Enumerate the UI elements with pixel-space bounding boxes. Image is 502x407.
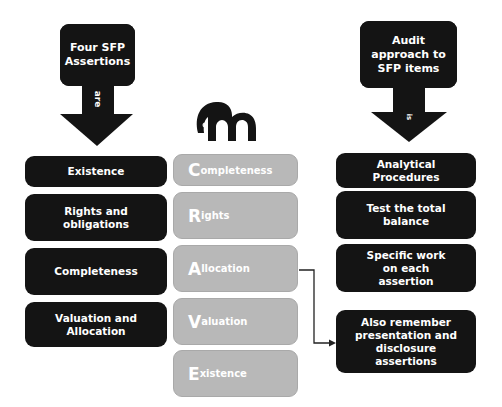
approach-label: Analytical Procedures <box>342 158 470 184</box>
mnemonic-initial: E <box>188 364 200 384</box>
assertion-label: Completeness <box>54 265 137 278</box>
assertion-box-rights: Rights and obligations <box>25 194 167 241</box>
mnemonic-initial: R <box>188 206 201 226</box>
mnemonic-box-valuation: Valuation <box>173 298 298 345</box>
approach-box-presentation: Also remember presentation and disclosur… <box>336 310 476 373</box>
assertion-box-valuation: Valuation and Allocation <box>25 302 167 347</box>
approach-box-analytical: Analytical Procedures <box>336 153 476 188</box>
assertion-label: Existence <box>68 165 125 178</box>
left-arrow-connector-label: are <box>93 89 103 109</box>
mnemonic-box-completeness: Completeness <box>173 154 298 186</box>
mnemonic-rest: aluation <box>201 316 247 327</box>
mnemonic-initial: A <box>188 259 201 279</box>
mnemonic-initial: V <box>188 312 201 332</box>
left-arrow-title: Four SFP Assertions <box>60 24 135 86</box>
approach-label: Test the total balance <box>342 202 470 228</box>
right-arrow-connector-label: is <box>405 107 413 127</box>
mnemonic-rest: ights <box>201 210 229 221</box>
approach-box-total-balance: Test the total balance <box>336 191 476 239</box>
assertion-box-existence: Existence <box>25 156 167 187</box>
elephant-m-logo-icon <box>192 95 262 145</box>
assertion-box-completeness: Completeness <box>25 248 167 295</box>
assertion-label: Valuation and Allocation <box>31 312 161 338</box>
mnemonic-rest: llocation <box>201 263 250 274</box>
approach-label: Specific work on each assertion <box>358 249 454 288</box>
assertion-label: Rights and obligations <box>31 205 161 231</box>
right-down-arrow: Audit approach to SFP items is <box>330 0 502 148</box>
right-arrow-title: Audit approach to SFP items <box>360 21 457 88</box>
mnemonic-box-rights: Rights <box>173 192 298 239</box>
mnemonic-box-allocation: Allocation <box>173 245 298 292</box>
left-down-arrow: Four SFP Assertions are <box>0 0 170 148</box>
mnemonic-rest: ompleteness <box>200 165 272 176</box>
approach-box-specific-work: Specific work on each assertion <box>336 244 476 292</box>
mnemonic-rest: xistence <box>200 368 247 379</box>
mnemonic-box-existence: Existence <box>173 350 298 397</box>
mnemonic-initial: C <box>188 160 200 180</box>
approach-label: Also remember presentation and disclosur… <box>350 316 462 368</box>
